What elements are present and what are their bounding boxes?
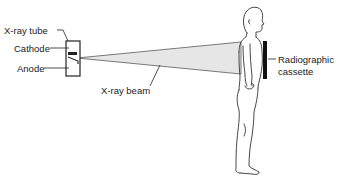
xray-tube-label: X-ray tube: [4, 25, 48, 36]
cathode-label: Cathode: [14, 43, 50, 54]
xray-tube: [66, 41, 80, 76]
xray-tube-leader: [57, 30, 68, 41]
cassette-label-line1: Radiographic: [278, 54, 334, 65]
xray-setup-diagram: X-ray tube Cathode Anode X-ray beam Radi…: [0, 0, 348, 179]
xray-beam-label: X-ray beam: [101, 85, 150, 96]
anode-label: Anode: [17, 63, 44, 74]
xray-beam: [77, 42, 241, 74]
radiographic-cassette: [263, 41, 267, 79]
xray-beam-leader: [150, 65, 160, 86]
diagram-artwork: [0, 0, 348, 179]
cassette-label-line2: cassette: [278, 66, 313, 77]
human-figure: [236, 7, 264, 174]
